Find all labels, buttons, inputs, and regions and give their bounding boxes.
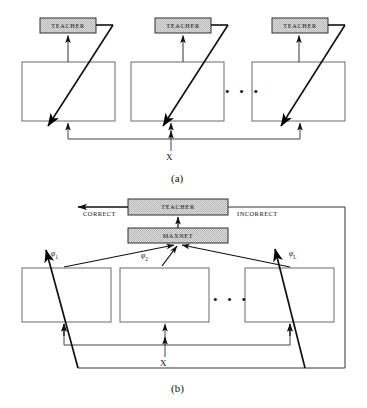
panel-a-input-label: X (166, 152, 173, 162)
panel-b-maxnet-label: MAXNET (128, 232, 228, 239)
panel-b-teacher-label: TEACHER (128, 203, 228, 210)
panel-a-network-box-3 (252, 62, 345, 121)
panel-b-label: (b) (171, 382, 184, 394)
panel-b-incorrect-label: INCORRECT (237, 210, 278, 217)
panel-a-teacher-label-3: TEACHER (272, 22, 328, 29)
panel-b-phi-label-2: φ2 (141, 251, 148, 262)
panel-b-phi-label-1: φ1 (51, 249, 58, 260)
panel-b-phi-line-1 (64, 245, 174, 267)
figure-canvas: TEACHER TEACHER TEACHER • • • X (a) TEAC… (0, 0, 367, 408)
panel-b-phi-label-3: φL (289, 249, 296, 260)
panel-a-label: (a) (171, 172, 183, 184)
panel-a-teacher-label-2: TEACHER (155, 22, 211, 29)
panel-b-network-box-2 (120, 268, 209, 322)
phi-subscript-1: 1 (55, 254, 58, 260)
panel-b-phi-line-2 (162, 246, 177, 266)
panel-b-phi-line-3 (182, 245, 290, 267)
phi-subscript-3: L (293, 254, 296, 260)
panel-b-ellipsis: • • • (213, 292, 249, 308)
panel-b-network-box-1 (22, 268, 111, 322)
panel-a-network-box-2 (131, 62, 224, 121)
panel-a-teacher-label-1: TEACHER (40, 22, 96, 29)
panel-b-correct-label: CORRECT (83, 210, 116, 217)
panel-a-ellipsis: • • • (225, 84, 261, 100)
panel-a-network-box-1 (22, 62, 115, 121)
panel-b-network-box-3 (245, 268, 334, 322)
phi-subscript-2: 2 (145, 256, 148, 262)
panel-b-input-label: X (160, 358, 167, 368)
